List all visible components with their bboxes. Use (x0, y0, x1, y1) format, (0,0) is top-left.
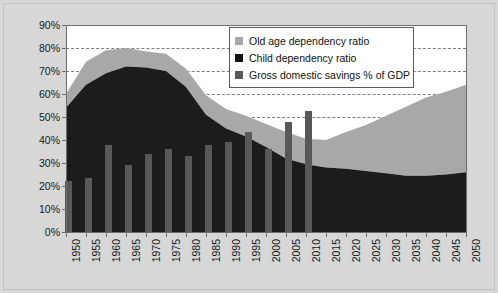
x-axis-tick-label: 2050 (470, 239, 482, 262)
x-axis-tick-mark (406, 232, 407, 237)
x-axis-tick-mark (266, 232, 267, 237)
x-axis-tick-label: 1975 (170, 239, 182, 262)
bar-gross-domestic-savings (85, 178, 92, 232)
x-axis-tick-label: 1970 (150, 239, 162, 262)
bar-gross-domestic-savings (225, 142, 232, 232)
legend-item-old-age: Old age dependency ratio (235, 32, 407, 49)
x-axis-tick-mark (106, 232, 107, 237)
x-axis-tick-mark (166, 232, 167, 237)
x-axis-tick-mark (206, 232, 207, 237)
x-axis-tick-label: 2020 (350, 239, 362, 262)
x-axis-tick-label: 2000 (270, 239, 282, 262)
bar-gross-domestic-savings (185, 156, 192, 232)
x-axis-tick-label: 2025 (370, 239, 382, 262)
x-axis-tick-label: 1995 (250, 239, 262, 262)
x-axis-tick-mark (306, 232, 307, 237)
bar-gross-domestic-savings (125, 165, 132, 232)
x-axis-tick-label: 2005 (290, 239, 302, 262)
x-axis-tick-mark (446, 232, 447, 237)
x-axis-tick-label: 1955 (90, 239, 102, 262)
legend-swatch-savings-icon (235, 71, 243, 79)
y-axis-tick-mark (62, 117, 66, 118)
x-axis-tick-mark (386, 232, 387, 237)
y-axis-tick-mark (62, 94, 66, 95)
x-axis-tick-mark (66, 232, 67, 237)
x-axis-tick-label: 2045 (450, 239, 462, 262)
bar-gross-domestic-savings (205, 145, 212, 232)
x-axis-tick-mark (366, 232, 367, 237)
legend-label-savings: Gross domestic savings % of GDP (249, 69, 410, 81)
legend-item-child: Child dependency ratio (235, 49, 407, 66)
x-axis-tick-label: 1985 (210, 239, 222, 262)
x-axis-tick-mark (346, 232, 347, 237)
x-axis-tick-label: 2035 (410, 239, 422, 262)
y-axis-right-line (466, 25, 467, 232)
x-axis-tick-mark (326, 232, 327, 237)
x-axis-tick-mark (226, 232, 227, 237)
x-axis-tick-label: 1980 (190, 239, 202, 262)
x-axis-tick-mark (186, 232, 187, 237)
bar-gross-domestic-savings (145, 154, 152, 232)
y-axis-tick-mark (62, 25, 66, 26)
x-axis-tick-label: 2030 (390, 239, 402, 262)
bar-gross-domestic-savings (285, 122, 292, 232)
legend-label-child: Child dependency ratio (249, 52, 356, 64)
x-axis-tick-mark (86, 232, 87, 237)
chart-figure-frame: 0%10%20%30%40%50%60%70%80%90% 1950195519… (0, 0, 498, 293)
y-axis-line (66, 25, 67, 232)
x-axis-tick-label: 2040 (430, 239, 442, 262)
y-axis-tick-mark (62, 209, 66, 210)
y-axis-tick-mark (62, 48, 66, 49)
bar-gross-domestic-savings (305, 111, 312, 232)
chart-legend: Old age dependency ratio Child dependenc… (229, 27, 414, 88)
x-axis-tick-label: 1965 (130, 239, 142, 262)
x-axis-tick-mark (246, 232, 247, 237)
x-axis-tick-label: 1950 (70, 239, 82, 262)
legend-label-old-age: Old age dependency ratio (249, 35, 369, 47)
bar-gross-domestic-savings (165, 149, 172, 232)
x-axis-tick-mark (426, 232, 427, 237)
bar-gross-domestic-savings (105, 145, 112, 232)
x-axis-tick-mark (466, 232, 467, 237)
y-axis-tick-mark (62, 71, 66, 72)
x-axis-tick-mark (286, 232, 287, 237)
bar-gross-domestic-savings (245, 132, 252, 232)
x-axis-tick-label: 1990 (230, 239, 242, 262)
y-axis-tick-mark (62, 140, 66, 141)
legend-swatch-child-icon (235, 54, 243, 62)
x-axis-tick-label: 1960 (110, 239, 122, 262)
x-axis-tick-mark (146, 232, 147, 237)
x-axis-tick-label: 2010 (310, 239, 322, 262)
y-axis-tick-mark (62, 163, 66, 164)
plot-top-line (66, 25, 466, 26)
x-axis-tick-label: 2015 (330, 239, 342, 262)
y-axis-tick-mark (62, 186, 66, 187)
x-axis-tick-mark (126, 232, 127, 237)
bar-gross-domestic-savings (265, 149, 272, 232)
legend-swatch-old-age-icon (235, 37, 243, 45)
legend-item-savings: Gross domestic savings % of GDP (235, 66, 407, 83)
